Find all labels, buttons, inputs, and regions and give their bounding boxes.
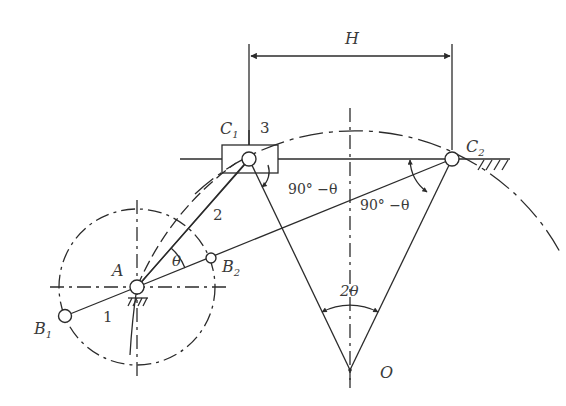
label-theta: θ <box>172 252 181 270</box>
label-c1: C1 <box>220 119 239 140</box>
label-h: H <box>344 29 360 48</box>
ground-hatch <box>128 298 148 306</box>
label-a: A <box>110 261 124 280</box>
joint-c1 <box>242 152 256 166</box>
label-coupler-number: 2 <box>213 206 223 224</box>
label-b1: B1 <box>33 319 52 340</box>
label-angle-left: 90° −θ <box>288 181 337 197</box>
mechanism-diagram: H C1 3 C2 2 1 A B1 B2 θ 90° −θ 90° −θ 2θ… <box>0 0 566 406</box>
crank-link <box>65 287 137 316</box>
joint-b2 <box>206 253 216 263</box>
label-b2: B2 <box>221 257 240 278</box>
label-slider-number: 3 <box>260 119 270 137</box>
label-crank-number: 1 <box>103 308 113 326</box>
joint-b1 <box>59 310 72 323</box>
label-2theta: 2θ <box>339 282 359 300</box>
label-o: O <box>380 363 393 382</box>
joint-a <box>130 280 144 294</box>
label-angle-right: 90° −θ <box>360 197 409 213</box>
joint-c2 <box>445 152 459 166</box>
stroke-dimension <box>249 44 452 150</box>
label-c2: C2 <box>466 137 485 158</box>
